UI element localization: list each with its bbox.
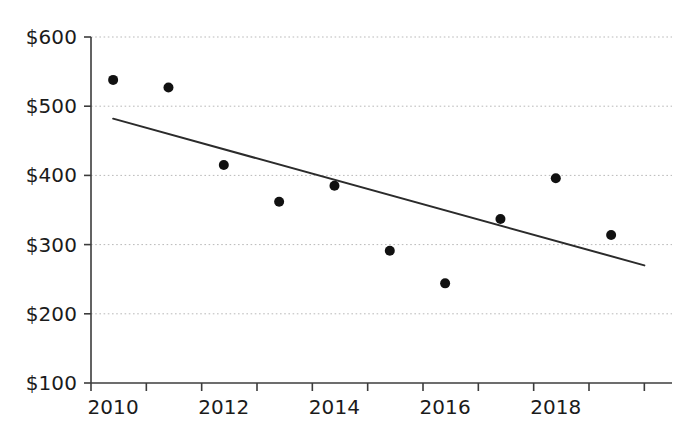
x-axis-tick-label: 2016 bbox=[419, 395, 470, 419]
data-point bbox=[219, 160, 229, 170]
data-point bbox=[495, 214, 505, 224]
data-point bbox=[274, 197, 284, 207]
y-axis-tick-label: $100 bbox=[0, 371, 77, 395]
gridlines bbox=[91, 37, 672, 314]
y-axis-tick-label: $600 bbox=[0, 25, 77, 49]
x-axis-ticks bbox=[91, 383, 644, 391]
y-axis-tick-label: $500 bbox=[0, 94, 77, 118]
data-point bbox=[163, 83, 173, 93]
trendline-segment bbox=[113, 119, 644, 266]
axes bbox=[91, 37, 672, 383]
x-axis-tick-label: 2018 bbox=[530, 395, 581, 419]
x-axis-tick-label: 2014 bbox=[309, 395, 360, 419]
y-axis-ticks bbox=[84, 37, 91, 383]
data-point bbox=[551, 173, 561, 183]
y-axis-tick-label: $200 bbox=[0, 302, 77, 326]
x-axis-tick-label: 2012 bbox=[198, 395, 249, 419]
scatter-chart: $600$500$400$300$200$100 201020122014201… bbox=[0, 0, 687, 445]
x-axis-tick-label: 2010 bbox=[87, 395, 138, 419]
data-points bbox=[108, 75, 616, 288]
y-axis-tick-label: $300 bbox=[0, 233, 77, 257]
data-point bbox=[440, 278, 450, 288]
data-point bbox=[606, 230, 616, 240]
trendline bbox=[113, 119, 644, 266]
y-axis-tick-label: $400 bbox=[0, 163, 77, 187]
data-point bbox=[385, 246, 395, 256]
data-point bbox=[329, 181, 339, 191]
plot-area bbox=[0, 0, 687, 445]
data-point bbox=[108, 75, 118, 85]
